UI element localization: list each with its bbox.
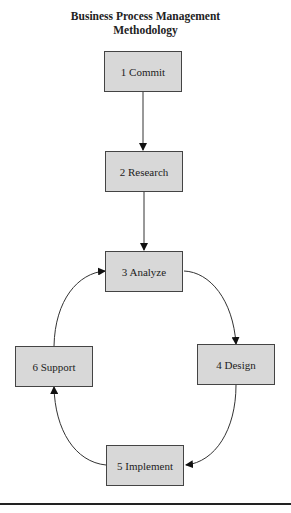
- node-support-label: 6 Support: [32, 361, 75, 373]
- edge-implement-support: [54, 387, 106, 465]
- node-research-label: 2 Research: [120, 166, 169, 178]
- node-design: 4 Design: [197, 344, 275, 385]
- node-support: 6 Support: [15, 346, 93, 387]
- node-analyze: 3 Analyze: [105, 251, 183, 292]
- edge-design-implement: [186, 385, 236, 465]
- node-design-label: 4 Design: [216, 359, 255, 371]
- bottom-rule: [0, 503, 291, 505]
- node-analyze-label: 3 Analyze: [122, 266, 166, 278]
- node-research: 2 Research: [105, 151, 183, 192]
- node-implement: 5 Implement: [106, 445, 184, 486]
- edge-analyze-design: [184, 271, 236, 344]
- node-commit-label: 1 Commit: [121, 66, 165, 78]
- node-commit: 1 Commit: [104, 51, 182, 92]
- edge-support-analyze: [54, 271, 105, 346]
- node-implement-label: 5 Implement: [117, 460, 173, 472]
